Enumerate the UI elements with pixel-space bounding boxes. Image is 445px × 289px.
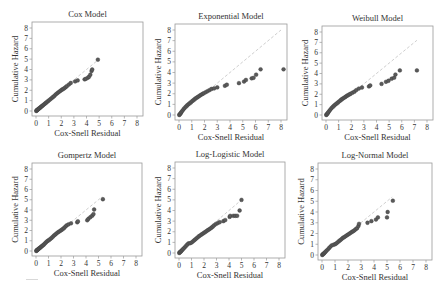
data-points — [34, 197, 104, 253]
panel-gompertz-model: Gompertz Model012345678012345678Cox-Snel… — [10, 150, 142, 278]
x-tick-label: 0 — [177, 261, 181, 270]
x-tick-label: 2 — [202, 261, 206, 270]
y-axis-label: Cumulative Hazard — [153, 176, 163, 243]
data-point — [88, 73, 92, 77]
y-tick-label: 1 — [24, 96, 28, 105]
crop-artifact-line — [26, 279, 38, 280]
data-point — [235, 214, 239, 218]
data-point — [376, 215, 380, 219]
y-tick-label: 4 — [24, 206, 28, 215]
x-tick-label: 0 — [320, 263, 324, 272]
data-point — [391, 199, 395, 203]
y-tick-label: 1 — [24, 236, 28, 245]
y-tick-label: 1 — [167, 238, 171, 247]
x-tick-label: 8 — [279, 123, 283, 132]
y-tick-label: 2 — [314, 90, 318, 99]
x-tick-label: 2 — [59, 259, 63, 268]
y-tick-label: 0 — [24, 107, 28, 116]
y-tick-label: 4 — [167, 68, 171, 77]
x-tick-label: 8 — [277, 261, 281, 270]
data-point — [370, 219, 374, 223]
x-tick-label: 1 — [47, 119, 51, 128]
panel-title: Log-Normal Model — [342, 150, 409, 160]
data-point — [215, 85, 219, 89]
data-point — [385, 215, 389, 219]
panel-weibull-model: Weibull Model012345678012345678Cox-Snell… — [300, 13, 433, 142]
x-tick-label: 0 — [34, 259, 38, 268]
data-point — [76, 78, 80, 82]
y-tick-label: 8 — [314, 28, 318, 37]
y-axis-label: Cumulative Hazard — [10, 176, 20, 243]
data-point — [415, 68, 419, 72]
y-axis-label: Cumulative Hazard — [10, 35, 20, 102]
x-tick-label: 7 — [411, 263, 415, 272]
y-tick-label: 7 — [310, 175, 314, 184]
x-tick-label: 6 — [252, 261, 256, 270]
y-tick-label: 3 — [314, 79, 318, 88]
y-tick-label: 3 — [310, 218, 314, 227]
y-tick-label: 7 — [167, 36, 171, 45]
panel-title: Weibull Model — [352, 13, 404, 23]
data-point — [238, 209, 242, 213]
panel-title: Log-Logistic Model — [196, 149, 265, 159]
y-tick-label: 1 — [314, 100, 318, 109]
y-tick-label: 8 — [310, 165, 314, 174]
y-tick-label: 0 — [314, 111, 318, 120]
x-tick-label: 3 — [72, 259, 76, 268]
x-axis-label: Cox-Snell Residual — [198, 132, 265, 142]
x-tick-label: 4 — [372, 263, 376, 272]
y-tick-label: 0 — [24, 247, 28, 256]
y-tick-label: 5 — [310, 197, 314, 206]
x-axis-label: Cox-Snell Residual — [54, 268, 121, 278]
x-tick-label: 5 — [385, 263, 389, 272]
panel-exponential-model: Exponential Model012345678012345678Cox-S… — [153, 11, 287, 142]
data-point — [259, 67, 263, 71]
y-tick-label: 6 — [24, 44, 28, 53]
y-tick-label: 4 — [314, 69, 318, 78]
y-tick-label: 2 — [167, 89, 171, 98]
data-point — [386, 210, 390, 214]
x-tick-label: 4 — [85, 119, 89, 128]
y-axis-label: Cumulative Hazard — [296, 178, 306, 245]
data-point — [76, 219, 80, 223]
y-tick-label: 2 — [167, 227, 171, 236]
y-axis-label: Cumulative Hazard — [153, 38, 163, 105]
x-tick-label: 8 — [424, 263, 428, 272]
y-tick-label: 5 — [167, 195, 171, 204]
y-tick-label: 3 — [167, 217, 171, 226]
x-tick-label: 3 — [215, 261, 219, 270]
x-axis-label: Cox-Snell Residual — [342, 272, 409, 282]
data-point — [218, 220, 222, 224]
data-point — [69, 81, 73, 85]
data-point — [360, 86, 364, 90]
y-tick-label: 3 — [167, 79, 171, 88]
data-point — [357, 222, 361, 226]
data-points — [34, 58, 99, 113]
y-tick-label: 5 — [167, 57, 171, 66]
y-tick-label: 0 — [167, 249, 171, 258]
x-tick-label: 5 — [241, 123, 245, 132]
x-tick-label: 3 — [215, 123, 219, 132]
x-tick-label: 8 — [135, 119, 139, 128]
y-tick-label: 3 — [24, 75, 28, 84]
y-tick-label: 2 — [310, 229, 314, 238]
x-tick-label: 8 — [425, 123, 429, 132]
x-tick-label: 5 — [97, 119, 101, 128]
y-tick-label: 4 — [310, 208, 314, 217]
data-point — [254, 73, 258, 77]
data-point — [223, 218, 227, 222]
y-tick-label: 5 — [24, 55, 28, 64]
data-point — [237, 81, 241, 85]
y-tick-label: 2 — [24, 86, 28, 95]
x-tick-label: 5 — [387, 123, 391, 132]
x-tick-label: 1 — [190, 261, 194, 270]
x-tick-label: 5 — [240, 261, 244, 270]
panel-title: Gompertz Model — [58, 150, 117, 160]
x-tick-label: 1 — [47, 259, 51, 268]
x-tick-label: 5 — [97, 259, 101, 268]
data-point — [368, 84, 372, 88]
x-tick-label: 1 — [190, 123, 194, 132]
data-point — [92, 208, 96, 212]
y-tick-label: 2 — [24, 226, 28, 235]
data-points — [177, 67, 285, 116]
